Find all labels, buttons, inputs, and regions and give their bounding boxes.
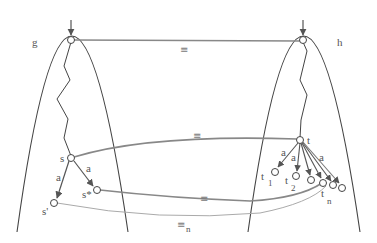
relation-s-t <box>74 138 297 157</box>
label-t1-sub: 1 <box>268 178 273 188</box>
relation-initial <box>74 40 300 41</box>
label-a-t1: a <box>281 146 286 158</box>
node-s-prime <box>51 200 58 207</box>
equiv-sprime-tn: ≡ <box>177 219 185 230</box>
path-h <box>300 42 307 138</box>
label-s-prime: s' <box>42 205 48 217</box>
label-tn-sub: n <box>327 196 332 206</box>
label-t: t <box>307 134 310 146</box>
label-t2-sub: 2 <box>291 183 296 193</box>
equiv-initial: ≡ <box>180 44 188 55</box>
node-t6 <box>339 185 346 192</box>
label-t1: t <box>261 170 264 182</box>
node-s-star <box>94 187 101 194</box>
transition-t-t2 <box>297 143 300 171</box>
node-tn <box>330 182 337 189</box>
label-h: h <box>337 36 343 48</box>
equiv-s-t: ≡ <box>193 130 201 141</box>
label-a-s-sprime: a <box>56 171 61 183</box>
node-t2 <box>293 173 300 180</box>
label-s: s <box>60 152 64 164</box>
label-a-s-sstar: a <box>86 162 91 174</box>
equiv-sprime-tn-sub: n <box>186 224 191 234</box>
node-g-initial <box>68 37 75 44</box>
node-t4 <box>320 180 327 187</box>
label-t2: t <box>285 174 288 186</box>
label-s-star: s* <box>82 188 92 200</box>
node-s <box>68 155 75 162</box>
node-t3 <box>308 177 315 184</box>
label-a-tn: a <box>319 151 324 163</box>
label-tn: t <box>321 187 324 199</box>
system-g-outline <box>17 36 128 232</box>
equiv-sstar-tn: ≡ <box>200 193 208 204</box>
node-t <box>297 137 304 144</box>
bisimulation-diagram: g h ≡ ≡ ≡ ≡ n s s* s' a a t a a a t 1 t … <box>0 0 377 243</box>
label-g: g <box>32 36 38 48</box>
node-h-initial <box>300 37 307 44</box>
node-t1 <box>272 169 279 176</box>
transition-t-tn <box>303 143 331 181</box>
path-g <box>57 42 71 156</box>
label-a-t2: a <box>291 151 296 163</box>
relation-sstar-tn <box>100 183 322 201</box>
